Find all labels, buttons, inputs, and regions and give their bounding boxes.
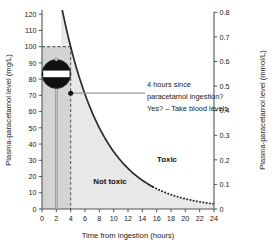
no-entry-sign-bar (43, 71, 69, 78)
y2-tick-label: 0.7 (220, 33, 230, 42)
no-entry-sign-finial (55, 58, 58, 61)
x-tick-label: 16 (153, 214, 161, 223)
y2-tick-label: 0.5 (220, 82, 230, 91)
x-tick-label: 14 (138, 214, 146, 223)
y2-tick-label: 0 (220, 205, 224, 214)
y-tick-label: 0 (33, 205, 37, 214)
y-tick-label: 80 (29, 75, 37, 84)
zone-label-not-toxic: Not toxic (93, 177, 127, 186)
y-tick-label: 110 (25, 26, 36, 35)
four-hour-point-marker (68, 91, 73, 96)
y-tick-label: 90 (29, 59, 37, 68)
y-tick-label: 100 (25, 42, 37, 51)
y-axis-left-ticks: 0102030405060708090100110120 (25, 10, 43, 214)
x-axis-title: Time from ingestion (hours) (82, 231, 175, 240)
y-axis-right-title: Plasma-paracetamol level (mmol/L) (258, 50, 267, 170)
x-tick-label: 0 (40, 214, 44, 223)
x-tick-label: 8 (97, 214, 101, 223)
x-tick-label: 20 (181, 214, 189, 223)
y-axis-left-title: Plasma-paracetamol level (mg/L) (4, 54, 13, 166)
annotation-line-1: 4 hours since (147, 80, 191, 89)
y-tick-label: 30 (29, 156, 37, 165)
y2-tick-label: 0.8 (220, 8, 230, 17)
y2-tick-label: 0.2 (220, 156, 230, 165)
x-tick-label: 6 (83, 214, 87, 223)
y-tick-label: 10 (29, 188, 37, 197)
x-tick-label: 10 (110, 214, 118, 223)
y-tick-label: 60 (29, 107, 37, 116)
y-tick-label: 40 (29, 140, 37, 149)
y-tick-label: 120 (25, 10, 37, 19)
x-tick-label: 2 (54, 214, 58, 223)
paracetamol-treatment-nomogram: 024681012141618202224 010203040506070809… (0, 0, 276, 246)
x-tick-label: 4 (69, 214, 73, 223)
y-tick-label: 70 (29, 91, 37, 100)
y2-tick-label: 0.3 (220, 131, 230, 140)
x-axis-ticks: 024681012141618202224 (40, 209, 218, 223)
y2-tick-label: 0.6 (220, 57, 230, 66)
x-tick-label: 24 (210, 214, 218, 223)
annotation-line-3: Yes? – Take blood levels (147, 104, 228, 113)
x-tick-label: 22 (196, 214, 204, 223)
x-tick-label: 12 (124, 214, 132, 223)
annotation-line-2: paracetamol ingestion? (147, 92, 223, 101)
chart-svg: 024681012141618202224 010203040506070809… (0, 0, 276, 246)
y-tick-label: 50 (29, 124, 37, 133)
x-tick-label: 18 (167, 214, 175, 223)
y-tick-label: 20 (29, 172, 37, 181)
zone-label-toxic: Toxic (157, 155, 177, 164)
y2-tick-label: 0.1 (220, 180, 230, 189)
